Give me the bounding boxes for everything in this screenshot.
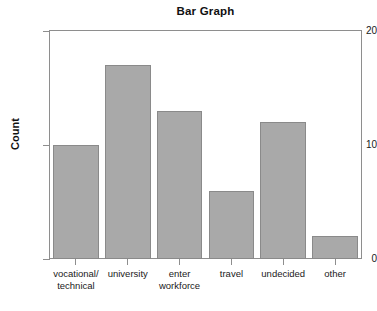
y-tick-label-10: 10: [339, 140, 377, 150]
bar-travel: [209, 191, 255, 259]
x-tick-5: [335, 259, 336, 265]
bar-chart: Bar Graph 01020 Count vocational/technic…: [0, 0, 377, 311]
x-axis-label-other: other: [303, 268, 367, 280]
y-axis-title: Count: [9, 104, 21, 164]
x-label-line: workforce: [148, 280, 212, 292]
x-label-line: technical: [44, 280, 108, 292]
x-tick-0: [75, 259, 76, 265]
y-tick-20: [43, 31, 50, 32]
y-tick-0: [43, 259, 50, 260]
bar-vocational-technical: [53, 145, 99, 259]
bar-undecided: [260, 122, 306, 259]
y-tick-label-0: 0: [339, 254, 377, 264]
chart-title: Bar Graph: [49, 5, 362, 17]
x-tick-4: [283, 259, 284, 265]
bars-layer: [50, 31, 361, 259]
y-tick-label-20: 20: [339, 26, 377, 36]
x-tick-1: [127, 259, 128, 265]
bar-enter-workforce: [157, 111, 203, 259]
x-tick-3: [231, 259, 232, 265]
x-tick-2: [179, 259, 180, 265]
x-label-line: other: [303, 268, 367, 280]
y-tick-10: [43, 145, 50, 146]
bar-university: [105, 65, 151, 259]
